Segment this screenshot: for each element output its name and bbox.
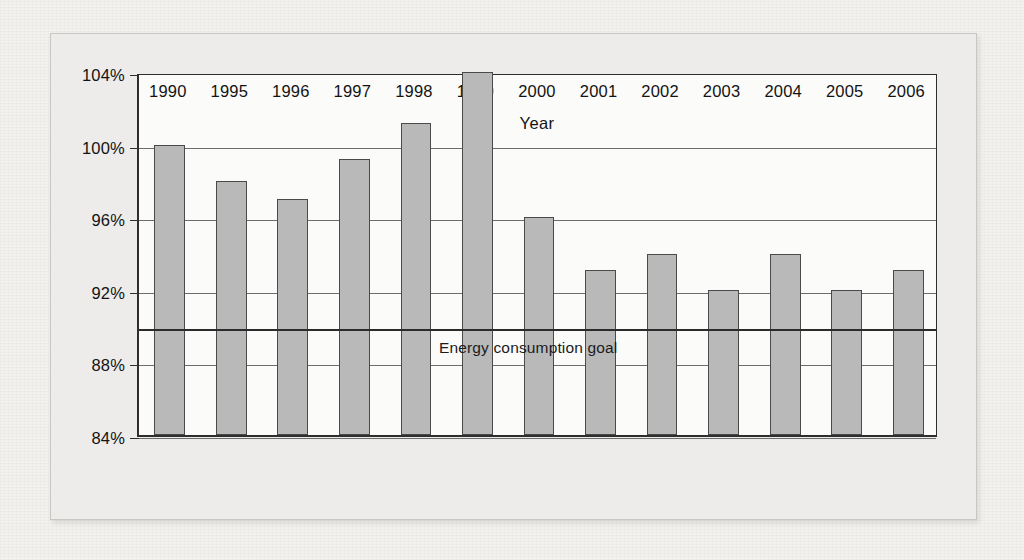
- y-tick-label-84: 84%: [91, 429, 125, 448]
- y-tick-mark-104: [130, 75, 139, 76]
- bar-2004: [770, 254, 801, 436]
- y-tick-label-88: 88%: [91, 356, 125, 375]
- y-tick-label-92: 92%: [91, 283, 125, 302]
- bar-1999: [462, 72, 493, 435]
- bar-2000: [524, 217, 555, 435]
- bar-2005: [831, 290, 862, 435]
- y-tick-mark-100: [130, 148, 139, 149]
- chart-figure-frame: 84%88%92%96%100%104% Energy consumption …: [50, 33, 977, 520]
- energy-consumption-goal-label: Energy consumption goal: [439, 339, 617, 357]
- plot-wrapper: 84%88%92%96%100%104% Energy consumption …: [137, 74, 937, 477]
- y-tick-mark-84: [130, 438, 139, 439]
- y-tick-mark-96: [130, 220, 139, 221]
- y-tick-mark-92: [130, 293, 139, 294]
- bar-2003: [708, 290, 739, 435]
- y-tick-mark-88: [130, 365, 139, 366]
- gridline-84: [139, 438, 936, 439]
- bar-2002: [647, 254, 678, 436]
- bar-1998: [401, 123, 432, 435]
- plot-area: 84%88%92%96%100%104% Energy consumption …: [137, 74, 937, 437]
- bars-group: [139, 75, 936, 435]
- bar-1990: [154, 145, 185, 435]
- y-tick-label-96: 96%: [91, 211, 125, 230]
- y-tick-label-104: 104%: [82, 66, 125, 85]
- bar-1996: [277, 199, 308, 435]
- bar-1997: [339, 159, 370, 435]
- bar-2006: [893, 270, 924, 435]
- y-tick-label-100: 100%: [82, 138, 125, 157]
- bar-1995: [216, 181, 247, 435]
- energy-consumption-goal-line: [139, 329, 936, 331]
